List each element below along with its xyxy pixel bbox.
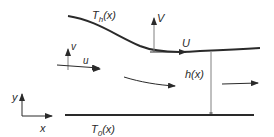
wall-velocity-u-label: U (182, 37, 190, 49)
lower-wall-temperature-label: T0(x) (91, 123, 115, 137)
fluid-velocity-v-label: v (71, 41, 77, 52)
wall-velocity-v-label: V (157, 12, 166, 24)
gap-height-label: h(x) (185, 68, 204, 80)
flow-diagram: Th(x) V U v u h(x) T0(x) y x (0, 0, 274, 137)
y-axis-label: y (11, 91, 19, 103)
fluid-velocity-u-label: u (83, 55, 89, 66)
x-axis-label: x (39, 122, 46, 134)
flow-direction-arrow-right (222, 83, 258, 84)
upper-wall-temperature-label: Th(x) (92, 9, 116, 24)
fluid-velocity-u-arrow (57, 65, 99, 68)
flow-direction-arrow-curved (124, 77, 175, 86)
